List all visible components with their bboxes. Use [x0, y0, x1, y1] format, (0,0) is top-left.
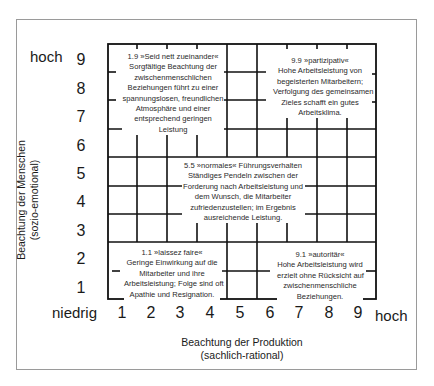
block-line: 9.9 »partizipativ« [273, 56, 367, 66]
y-axis-high-label: hoch [30, 48, 63, 65]
x-axis-low-label: niedrig [52, 304, 97, 321]
block-line: Verfolgung des gemeinsamen [273, 87, 367, 97]
x-tick-6: 6 [260, 304, 280, 322]
y-tick-1: 1 [71, 279, 91, 297]
block-line: begeisterten Mitarbeitern; [273, 77, 367, 87]
y-tick-5: 5 [71, 165, 91, 183]
y-axis-title-line1: Beachtung der Menschen [15, 125, 28, 275]
block-line: Arbeitsleistung; Folge sind oft [124, 279, 220, 289]
x-tick-8: 8 [319, 304, 339, 322]
block-line: Beziehungen. [277, 292, 363, 302]
x-tick-4: 4 [200, 304, 220, 322]
x-tick-9: 9 [348, 304, 368, 322]
y-axis-title-line2: (sozio-emotional) [28, 125, 41, 275]
x-axis-title-line1: Beachtung der Produktion [167, 336, 317, 349]
style-block-9-1: 9.1 »autoritär« Hohe Arbeitsleistung wir… [277, 250, 363, 302]
block-line: dem Wunsch, die Mitarbeiter [183, 192, 303, 202]
block-line: zwischenmenschlichen [122, 73, 224, 83]
block-line: Atmosphäre und einer [122, 104, 224, 114]
block-line: Leistung [122, 125, 224, 135]
block-line: Hohe Arbeitsleistung wird [277, 260, 363, 270]
block-line: 5.5 »normales« Führungsverhalten [183, 161, 303, 171]
y-axis-title: Beachtung der Menschen (sozio-emotional) [15, 125, 41, 275]
style-block-5-5: 5.5 »normales« Führungsverhalten Ständig… [183, 161, 303, 223]
block-line: spannungslosen, freundlichen [122, 94, 224, 104]
style-block-1-1: 1.1 »laissez faire« Geringe Einwirkung a… [124, 248, 220, 300]
block-line: entsprechend geringen [122, 114, 224, 124]
style-block-9-9: 9.9 »partizipativ« Hohe Arbeitsleistung … [273, 56, 367, 118]
block-line: 1.9 »Seid nett zueinander« [122, 52, 224, 62]
x-axis-title-line2: (sachlich-rational) [167, 349, 317, 362]
y-tick-3: 3 [71, 222, 91, 240]
block-line: Forderung nach Arbeitsleistung und [183, 182, 303, 192]
block-line: Ständiges Pendeln zwischen der [183, 171, 303, 181]
x-tick-1: 1 [112, 304, 132, 322]
block-line: erzielt ohne Rücksicht auf [277, 271, 363, 281]
block-line: Geringe Einwirkung auf die [124, 258, 220, 268]
block-line: Hohe Arbeitsleistung von [273, 66, 367, 76]
x-tick-3: 3 [170, 304, 190, 322]
y-tick-4: 4 [71, 193, 91, 211]
block-line: zwischenmenschliche [277, 281, 363, 291]
x-tick-5: 5 [230, 304, 250, 322]
block-line: Mitarbeiter und ihre [124, 269, 220, 279]
block-line: Apathie und Resignation. [124, 290, 220, 300]
block-line: Zieles schafft ein gutes [273, 98, 367, 108]
x-axis-title: Beachtung der Produktion (sachlich-ratio… [167, 336, 317, 362]
block-line: zufriedenzustellen; im Ergebnis [183, 203, 303, 213]
y-tick-9: 9 [71, 51, 91, 69]
y-tick-2: 2 [71, 250, 91, 268]
block-line: Arbeitsklima. [273, 108, 367, 118]
block-line: ausreichende Leistung. [183, 213, 303, 223]
y-tick-8: 8 [71, 80, 91, 98]
x-tick-2: 2 [141, 304, 161, 322]
y-tick-7: 7 [71, 108, 91, 126]
block-line: 1.1 »laissez faire« [124, 248, 220, 258]
x-tick-7: 7 [289, 304, 309, 322]
x-axis-high-label: hoch [375, 307, 408, 324]
y-tick-6: 6 [71, 137, 91, 155]
block-line: Sorgfältige Beachtung der [122, 62, 224, 72]
block-line: Beziehungen führt zu einer [122, 83, 224, 93]
style-block-1-9: 1.9 »Seid nett zueinander« Sorgfältige B… [122, 52, 224, 135]
block-line: 9.1 »autoritär« [277, 250, 363, 260]
